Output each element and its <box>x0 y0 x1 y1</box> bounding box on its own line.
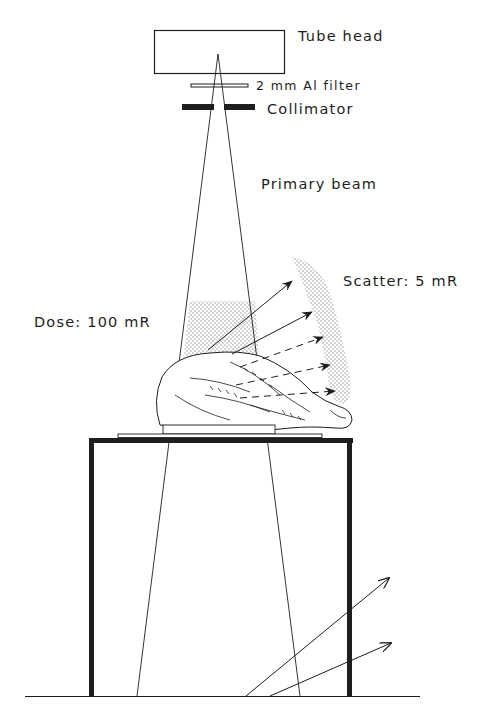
radiography-diagram <box>0 0 503 706</box>
table <box>89 438 353 696</box>
tube-head-label: Tube head <box>298 29 384 44</box>
primary-beam-label: Primary beam <box>261 177 377 192</box>
dose-region <box>184 301 259 358</box>
collimator <box>182 104 255 110</box>
filter-label: 2 mm Al filter <box>256 80 361 93</box>
collimator-label: Collimator <box>267 102 354 117</box>
scatter-label: Scatter: 5 mR <box>343 274 458 289</box>
animal-subject <box>156 352 352 430</box>
dose-label: Dose: 100 mR <box>34 315 151 330</box>
floor-scatter-arrows <box>246 578 391 696</box>
al-filter <box>191 84 248 87</box>
